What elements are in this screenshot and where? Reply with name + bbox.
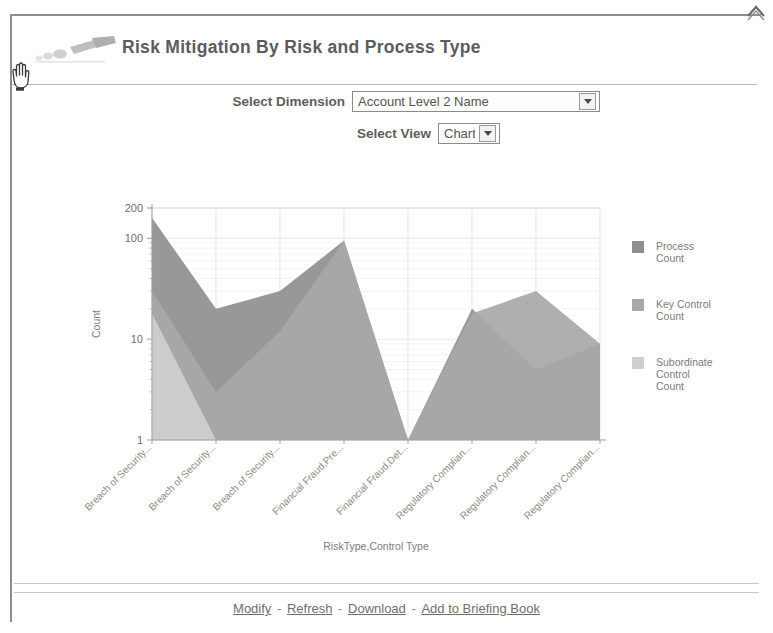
legend-label: Key Control (656, 298, 711, 310)
chart-legend[interactable]: ProcessCountKey ControlCountSubordinateC… (632, 240, 713, 392)
footer-link-bar: Modify - Refresh - Download - Add to Bri… (0, 601, 773, 616)
legend-label: Process (656, 240, 694, 252)
chevron-collapse-icon[interactable] (745, 2, 767, 22)
x-category-label: Breach of Security... (146, 442, 217, 513)
select-dimension-value: Account Level 2 Name (358, 94, 489, 109)
x-category-label: Breach of Security... (210, 442, 281, 513)
x-axis-title: RiskType,Control Type (323, 540, 429, 552)
legend-item[interactable]: Key ControlCount (632, 298, 711, 322)
y-axis-tick-labels: 200100101 (125, 202, 143, 446)
frame-top-rule (12, 14, 761, 16)
footer-link-refresh[interactable]: Refresh (287, 601, 333, 616)
chart-area[interactable]: 200100101 Breach of Security...Breach of… (20, 190, 750, 570)
chevron-down-icon[interactable] (579, 93, 596, 110)
x-category-label: Breach of Security... (82, 442, 153, 513)
page-title: Risk Mitigation By Risk and Process Type (122, 37, 481, 58)
legend-label: Count (656, 310, 684, 322)
chart-series-layer (152, 218, 600, 440)
report-header: Risk Mitigation By Risk and Process Type (12, 30, 752, 82)
prompt-row-dimension: Select Dimension Account Level 2 Name (40, 89, 600, 113)
x-category-label: Financial Fraud,Pre... (270, 442, 345, 517)
select-dimension-dropdown[interactable]: Account Level 2 Name (352, 91, 600, 112)
footer-link-add-to-briefing-book[interactable]: Add to Briefing Book (421, 601, 540, 616)
link-separator: - (271, 601, 287, 616)
legend-label: Control (656, 368, 690, 380)
title-underline (12, 84, 757, 85)
hand-cursor-icon (6, 58, 36, 92)
prompt-row-view: Select View Chart (40, 121, 500, 145)
legend-label: Count (656, 252, 684, 264)
chevron-down-icon[interactable] (479, 125, 496, 142)
select-view-dropdown[interactable]: Chart (438, 123, 500, 144)
legend-swatch (632, 357, 644, 369)
legend-item[interactable]: ProcessCount (632, 240, 694, 264)
x-category-label: Regulatory Complian... (522, 442, 602, 522)
legend-item[interactable]: SubordinateControlCount (632, 356, 713, 392)
footer-separator (14, 583, 759, 593)
x-axis-category-labels: Breach of Security...Breach of Security.… (82, 442, 601, 522)
select-dimension-label: Select Dimension (232, 94, 345, 109)
legend-label: Subordinate (656, 356, 713, 368)
footer-link-download[interactable]: Download (348, 601, 406, 616)
y-tick-label: 10 (131, 333, 143, 345)
select-view-label: Select View (357, 126, 431, 141)
legend-swatch (632, 241, 644, 253)
x-category-label: Financial Fraud,Det... (334, 442, 409, 517)
area-chart[interactable]: 200100101 Breach of Security...Breach of… (20, 190, 750, 570)
y-tick-label: 200 (125, 202, 143, 214)
brush-decoration-icon (30, 34, 120, 72)
link-separator: - (332, 601, 348, 616)
select-view-value: Chart (444, 126, 475, 141)
y-axis-title: Count (90, 310, 102, 338)
footer-link-modify[interactable]: Modify (233, 601, 271, 616)
y-tick-label: 100 (125, 232, 143, 244)
legend-swatch (632, 299, 644, 311)
legend-label: Count (656, 380, 684, 392)
link-separator: - (406, 601, 422, 616)
